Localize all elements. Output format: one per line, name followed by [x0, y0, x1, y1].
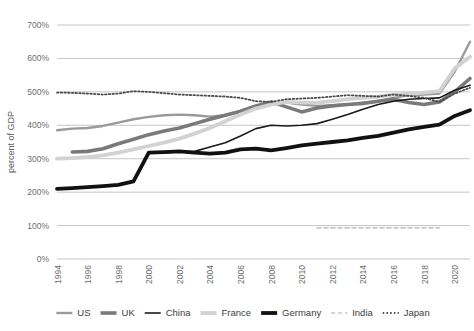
x-axis-tick-label: 1994: [53, 265, 63, 284]
x-axis-tick-label: 2020: [450, 265, 460, 284]
legend-item-uk[interactable]: UK: [101, 307, 136, 318]
series-line-us: [57, 42, 470, 131]
series-group: [57, 42, 470, 228]
x-axis-tick-label: 2008: [267, 265, 277, 284]
y-axis-tick-label: 100%: [27, 221, 49, 231]
legend-item-france[interactable]: France: [201, 307, 252, 318]
y-axis-tick-label: 600%: [27, 53, 49, 63]
x-axis-tick-label: 2004: [205, 265, 215, 284]
legend-label: China: [166, 307, 192, 318]
legend-item-china[interactable]: China: [145, 307, 192, 318]
x-axis-ticks: 1994199619982000200220042006200820102012…: [53, 265, 461, 284]
gdp-debt-line-chart: 0%100%200%300%400%500%600%700%percent of…: [0, 0, 474, 331]
x-axis-tick-label: 1998: [114, 265, 124, 284]
y-axis-tick-label: 0%: [37, 254, 50, 264]
legend-label: Japan: [404, 307, 430, 318]
y-axis-tick-label: 300%: [27, 154, 49, 164]
x-axis-tick-label: 2006: [236, 265, 246, 284]
legend-item-us[interactable]: US: [56, 307, 90, 318]
legend-label: UK: [122, 307, 136, 318]
x-axis-tick-label: 2002: [175, 265, 185, 284]
x-axis-tick-label: 2016: [389, 265, 399, 284]
x-axis-tick-label: 2010: [297, 265, 307, 284]
x-axis-tick-label: 1996: [83, 265, 93, 284]
legend-item-germany[interactable]: Germany: [261, 307, 321, 318]
y-axis-tick-label: 500%: [27, 87, 49, 97]
x-axis-tick-label: 2000: [144, 265, 154, 284]
y-axis-tick-label: 400%: [27, 120, 49, 130]
x-axis-tick-label: 2014: [358, 265, 368, 284]
y-axis-tick-label: 700%: [27, 20, 49, 30]
y-axis-title: percent of GDP: [6, 111, 16, 173]
chart-container: 0%100%200%300%400%500%600%700%percent of…: [0, 0, 474, 331]
legend: USUKChinaFranceGermanyIndiaJapan: [56, 307, 429, 318]
legend-label: US: [77, 307, 90, 318]
legend-label: Germany: [282, 307, 321, 318]
x-axis-tick-label: 2018: [420, 265, 430, 284]
legend-label: France: [222, 307, 252, 318]
legend-label: India: [352, 307, 373, 318]
y-axis-tick-label: 200%: [27, 187, 49, 197]
legend-item-japan[interactable]: Japan: [383, 307, 430, 318]
x-axis-tick-label: 2012: [328, 265, 338, 284]
series-line-uk: [72, 78, 470, 152]
legend-item-india[interactable]: India: [331, 307, 373, 318]
